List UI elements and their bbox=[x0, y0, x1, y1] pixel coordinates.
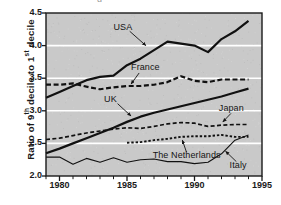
series-label-uk: UK bbox=[104, 94, 117, 104]
series-label-japan: Japan bbox=[219, 103, 244, 113]
x-tick-label: 1985 bbox=[107, 180, 147, 190]
chart-figure: g Ratio of 9th decile to 1st decile 2.02… bbox=[0, 0, 281, 205]
series-label-france: France bbox=[131, 62, 160, 72]
series-label-the-netherlands: The Netherlands bbox=[153, 150, 221, 160]
x-tick-label: 1980 bbox=[40, 180, 80, 190]
x-tick-label: 1995 bbox=[242, 180, 281, 190]
series-label-italy: Italy bbox=[230, 160, 247, 170]
x-tick-label: 1990 bbox=[175, 180, 215, 190]
series-label-usa: USA bbox=[114, 22, 133, 32]
